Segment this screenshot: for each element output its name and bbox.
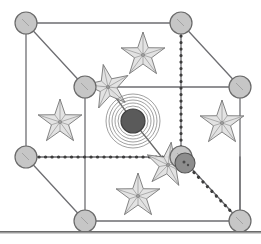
- corner-atom-1: [170, 12, 192, 34]
- horizontal-divider: [0, 231, 261, 234]
- interior-atom-pip-a: [183, 161, 186, 164]
- interior-atom-pip-b: [187, 164, 189, 166]
- corner-atom-0: [15, 12, 37, 34]
- star-core-5: [136, 194, 139, 197]
- star-core-0: [141, 53, 144, 56]
- star-core-3: [220, 121, 223, 124]
- corner-atom-7: [229, 210, 251, 232]
- center-atom-sphere: [121, 109, 145, 133]
- corner-atom-5: [229, 76, 251, 98]
- corner-atom-6: [74, 210, 96, 232]
- center-atom: [121, 109, 145, 133]
- crystal-lattice-figure: [0, 0, 261, 244]
- lattice-diagram: [0, 0, 261, 244]
- interior-atom: [175, 153, 195, 173]
- corner-atom-4: [74, 76, 96, 98]
- corner-atom-2: [15, 146, 37, 168]
- star-core-4: [166, 163, 169, 166]
- star-core-1: [106, 85, 109, 88]
- star-core-2: [58, 120, 61, 123]
